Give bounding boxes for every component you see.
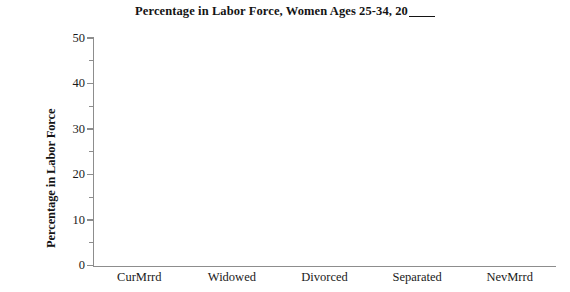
y-axis-tick-major <box>87 219 94 220</box>
y-axis-tick-major <box>87 37 94 38</box>
y-axis-tick-minor <box>89 197 94 198</box>
bars-layer <box>93 38 556 266</box>
y-axis-tick-label: 30 <box>45 123 85 136</box>
y-axis-tick-major <box>87 128 94 129</box>
y-axis-tick-major <box>87 83 94 84</box>
y-axis-tick-major <box>87 265 94 266</box>
y-axis-tick-minor <box>89 242 94 243</box>
chart-title-text: Percentage in Labor Force, Women Ages 25… <box>135 4 408 18</box>
title-blank-underline <box>409 7 435 17</box>
chart-title: Percentage in Labor Force, Women Ages 25… <box>0 4 570 19</box>
y-axis-tick-label: 50 <box>45 32 85 45</box>
y-axis-tick-label: 40 <box>45 77 85 90</box>
y-axis-tick-major <box>87 174 94 175</box>
y-axis-tick-minor <box>89 151 94 152</box>
y-axis-tick-label: 10 <box>45 214 85 227</box>
y-axis-tick-label: 0 <box>45 259 85 272</box>
y-axis-tick-minor <box>89 60 94 61</box>
y-axis-tick-minor <box>89 106 94 107</box>
plot-area <box>93 38 556 266</box>
y-axis-tick-label: 20 <box>45 168 85 181</box>
x-axis-tick-label: NevMrrd <box>455 270 565 285</box>
x-axis-line <box>93 266 556 267</box>
